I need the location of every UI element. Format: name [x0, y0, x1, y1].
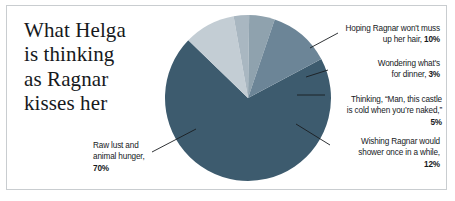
callout-lust-line1: Raw lust and — [93, 141, 139, 150]
title-line-2: is thinking — [24, 42, 184, 66]
page-title: What Helga is thinking as Ragnar kisses … — [24, 18, 184, 115]
callout-hair: Hoping Ragnar won't muss up her hair, 10… — [320, 23, 440, 46]
callout-castle-line1: Thinking, “Man, this castle — [351, 95, 442, 104]
title-line-1: What Helga — [24, 18, 184, 42]
callout-shower-line2: shower once in a while, — [358, 148, 440, 157]
title-line-4: kisses her — [24, 91, 184, 115]
callout-hair-percent: 10% — [424, 35, 440, 44]
pie-chart — [164, 14, 332, 182]
callout-hair-line1: Hoping Ragnar won't muss — [346, 24, 440, 33]
callout-lust-line2: animal hunger, — [93, 152, 145, 161]
callout-castle-line2: is cold when you’re naked,” — [347, 106, 442, 115]
pie-chart-svg — [164, 14, 332, 182]
callout-shower-percent: 12% — [424, 160, 440, 169]
callout-hair-line2: up her hair, — [383, 35, 424, 44]
infographic-page: What Helga is thinking as Ragnar kisses … — [0, 0, 455, 201]
pie-slices — [165, 15, 331, 181]
callout-dinner-line1: Wondering what's — [378, 59, 440, 68]
callout-castle: Thinking, “Man, this castle is cold when… — [316, 94, 442, 128]
callout-dinner: Wondering what's for dinner, 3% — [330, 58, 440, 81]
callout-lust: Raw lust and animal hunger, 70% — [93, 140, 189, 174]
callout-lust-percent: 70% — [93, 164, 109, 173]
title-line-3: as Ragnar — [24, 67, 184, 91]
callout-dinner-percent: 3% — [428, 70, 440, 79]
callout-shower: Wishing Ragnar would shower once in a wh… — [322, 136, 440, 170]
callout-dinner-line2: for dinner, — [392, 70, 429, 79]
callout-shower-line1: Wishing Ragnar would — [361, 137, 440, 146]
callout-castle-percent: 5% — [430, 118, 442, 127]
